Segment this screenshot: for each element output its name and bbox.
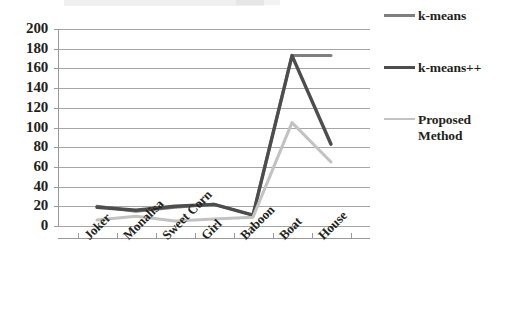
y-axis-tick-label: 120	[26, 100, 48, 115]
y-axis-tick-label: 200	[26, 21, 48, 36]
legend-color-swatch	[384, 60, 415, 74]
y-axis-tick-label: 100	[26, 120, 48, 135]
y-axis-tick-label: 160	[26, 60, 48, 75]
y-axis-tick-label: 0	[41, 218, 48, 233]
legend-color-swatch	[384, 112, 415, 126]
legend-entry[interactable]: k-means++	[384, 60, 481, 76]
y-axis-tick-label: 180	[26, 41, 48, 56]
y-axis-tick-label: 140	[26, 80, 48, 95]
x-axis: JokerMonalisaSweet CornGirlBaboonBoatHou…	[58, 232, 388, 316]
y-axis: 200180160140120100806040200	[0, 0, 54, 316]
legend-entry[interactable]: k-means	[384, 8, 466, 24]
legend-color-swatch	[384, 8, 415, 22]
line-chart: 200180160140120100806040200 JokerMonalis…	[0, 0, 505, 316]
y-axis-tick-label: 80	[33, 139, 48, 154]
scan-artifact	[236, 0, 280, 5]
chart-legend: k-meansk-means++Proposed Method	[384, 8, 505, 143]
legend-label: Proposed Method	[418, 112, 471, 144]
y-axis-tick-label: 40	[33, 179, 48, 194]
legend-label: k-means++	[418, 60, 481, 76]
legend-label: k-means	[418, 8, 466, 24]
y-axis-tick-label: 60	[33, 159, 48, 174]
scan-artifact	[64, 0, 264, 6]
legend-entry[interactable]: Proposed Method	[384, 112, 471, 144]
y-axis-tick-label: 20	[33, 198, 48, 213]
